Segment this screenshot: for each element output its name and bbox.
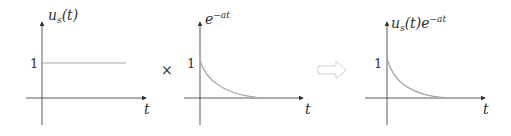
tick-label-1: 1 bbox=[187, 56, 195, 71]
exp-decay-curve bbox=[200, 60, 265, 98]
y-axis-label: us(t) bbox=[48, 7, 78, 25]
multiply-operator: × bbox=[161, 62, 173, 78]
plot-product: us(t)e−at 1 t bbox=[365, 14, 489, 125]
x-axis-label: t bbox=[144, 101, 150, 117]
plot-exponential: e−at 1 t bbox=[184, 10, 311, 125]
plot-unit-step: us(t) 1 t bbox=[26, 7, 150, 125]
y-axis-label: e−at bbox=[205, 10, 230, 27]
x-axis-label: t bbox=[305, 101, 311, 117]
tick-label-1: 1 bbox=[374, 56, 382, 71]
implies-arrow-icon bbox=[318, 61, 346, 79]
x-axis-label: t bbox=[483, 101, 489, 117]
y-axis-label: us(t)e−at bbox=[391, 14, 446, 33]
product-curve bbox=[387, 58, 448, 98]
tick-label-1: 1 bbox=[30, 56, 38, 71]
